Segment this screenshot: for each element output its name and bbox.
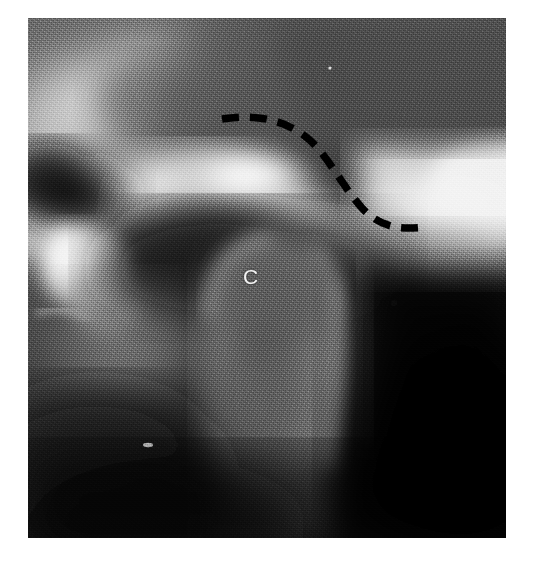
bottom-vignette — [28, 448, 506, 538]
radiograph-canvas — [28, 18, 506, 538]
figure-page: C — [0, 0, 534, 566]
condyle-label: C — [243, 266, 258, 287]
radiograph-image: C — [28, 18, 506, 538]
bright-pinpoint — [328, 66, 331, 69]
light-speck — [143, 443, 153, 447]
dark-speck — [391, 300, 397, 306]
